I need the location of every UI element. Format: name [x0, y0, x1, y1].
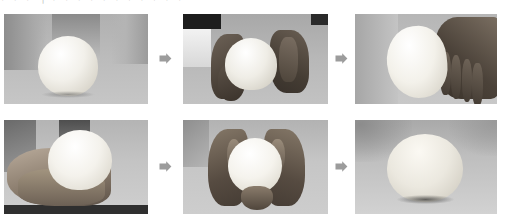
photo-panel-r1c1 [4, 14, 148, 104]
photo-image-r1c1 [4, 14, 148, 104]
photo-image-r1c2 [183, 14, 328, 104]
step-arrow-icon-arrow-r2-1 [159, 160, 172, 173]
step-arrow-icon-arrow-r1-2 [335, 52, 348, 65]
photo-panel-r2c1 [4, 120, 148, 214]
step-arrow-icon-arrow-r2-2 [335, 160, 348, 173]
photo-image-r1c3 [355, 14, 497, 104]
photo-image-r2c3 [355, 120, 497, 214]
step-arrow-icon-arrow-r1-1 [159, 52, 172, 65]
photo-image-r2c1 [4, 120, 148, 214]
photo-panel-r2c3 [355, 120, 497, 214]
photo-image-r2c2 [183, 120, 328, 214]
photo-panel-r1c2 [183, 14, 328, 104]
photo-sequence-grid [0, 0, 511, 221]
photo-panel-r1c3 [355, 14, 497, 104]
photo-panel-r2c2 [183, 120, 328, 214]
